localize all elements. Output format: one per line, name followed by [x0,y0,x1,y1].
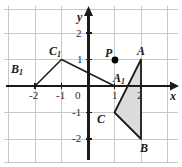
triangle-A1B1C1-outline [35,60,115,87]
y-tick-label--2: -2 [72,133,81,144]
origin-label: 0 [75,90,81,101]
x-axis-label: x [170,90,176,102]
point-label-A: A [137,45,145,57]
y-tick-label-2: 2 [76,28,82,39]
x-tick-label--1: -1 [56,90,65,101]
y-axis [84,6,93,160]
y-tick-label--1: -1 [72,107,81,118]
point-label-C1-base: C [49,44,57,58]
point-label-A1-base: A [113,71,121,85]
point-label-C1-subscript: 1 [57,50,61,59]
point-label-B1-subscript: 1 [19,68,23,77]
point-label-C1: C1 [49,45,61,57]
x-tick-label-1: 1 [112,90,118,101]
y-axis-label: y [77,11,82,23]
point-label-P: P [105,47,112,59]
point-label-B: B [140,142,148,154]
figure-canvas [0,0,182,167]
x-tick-label--2: -2 [29,90,38,101]
point-label-C: C [97,113,105,125]
point-label-B1: B1 [11,63,23,75]
x-tick-label-2: 2 [137,90,143,101]
point-label-A1-subscript: 1 [121,77,125,86]
point-P-marker [112,57,119,64]
y-tick-label-1: 1 [77,54,83,65]
point-label-B1-base: B [11,62,19,76]
point-label-A1: A1 [113,72,125,84]
coordinate-plane-figure: A B C P A1 B1 C1 x y 0 -2 -1 1 2 2 1 -1 … [0,0,182,167]
